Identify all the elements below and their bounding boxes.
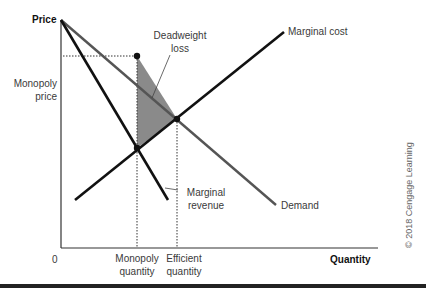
marginal-revenue-label-2: revenue (180, 200, 232, 212)
deadweight-leader (152, 55, 170, 98)
monopoly-quantity-label-1: Monopoly (109, 253, 165, 265)
deadweight-loss-label-1: Deadweight (140, 30, 220, 42)
mc-mr-intersection-point (134, 145, 140, 151)
demand-label: Demand (281, 200, 319, 212)
efficient-quantity-label-2: quantity (158, 266, 210, 278)
bottom-rule (0, 284, 426, 288)
marginal-revenue-leader (165, 188, 178, 190)
marginal-cost-label: Marginal cost (288, 26, 347, 38)
origin-label: 0 (52, 254, 58, 266)
efficient-quantity-label-1: Efficient (158, 253, 210, 265)
y-axis-label: Price (32, 14, 56, 26)
monopoly-price-label-2: price (0, 91, 57, 103)
monopoly-price-label-1: Monopoly (0, 78, 57, 90)
deadweight-loss-label-2: loss (140, 43, 220, 55)
efficient-point (174, 116, 180, 122)
marginal-revenue-label-1: Marginal (180, 187, 232, 199)
copyright-credit: © 2018 Cengage Learning (404, 142, 414, 248)
x-axis-label: Quantity (330, 254, 371, 266)
marginal-cost-curve (75, 32, 284, 200)
monopoly-quantity-label-2: quantity (109, 266, 165, 278)
